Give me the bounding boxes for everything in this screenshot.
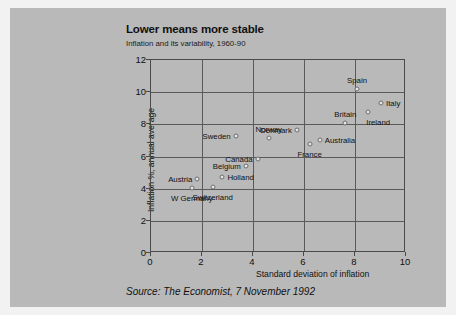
- data-point-label: Denmark: [260, 126, 292, 135]
- plot-area: W GermanyAustriaSwitzerlandHollandSweden…: [150, 59, 405, 252]
- data-point: [266, 135, 271, 140]
- data-point: [189, 185, 194, 190]
- x-tick-mark: [303, 252, 304, 256]
- data-point-label: Australia: [325, 136, 355, 145]
- data-point-label: Switzerland: [193, 193, 233, 202]
- x-tick-label: 2: [198, 256, 203, 267]
- y-tick-label: 12: [135, 54, 146, 65]
- x-axis-tick-labels: 0246810: [150, 256, 405, 270]
- y-tick-mark: [146, 59, 150, 60]
- chart-card: Lower means more stable Inflation and it…: [10, 8, 446, 307]
- y-tick-mark: [146, 220, 150, 221]
- x-tick-label: 4: [249, 256, 254, 267]
- data-point: [220, 175, 225, 180]
- data-point-label: Ireland: [366, 117, 390, 126]
- gridline-vertical: [253, 60, 254, 251]
- chart-title: Lower means more stable: [126, 23, 264, 35]
- data-point: [195, 177, 200, 182]
- x-tick-label: 8: [351, 256, 356, 267]
- data-point: [379, 100, 384, 105]
- x-tick-label: 10: [400, 256, 411, 267]
- gridline-vertical: [202, 60, 203, 251]
- data-point-label: Britain: [334, 110, 356, 119]
- x-tick-mark: [354, 252, 355, 256]
- data-point: [255, 156, 260, 161]
- y-tick-mark: [146, 123, 150, 124]
- chart-page: Lower means more stable Inflation and it…: [0, 0, 456, 315]
- data-point: [355, 86, 360, 91]
- gridline-horizontal: [151, 92, 404, 93]
- data-point: [343, 121, 348, 126]
- x-tick-label: 0: [147, 256, 152, 267]
- data-point-label: Austria: [168, 175, 192, 184]
- x-tick-mark: [201, 252, 202, 256]
- data-point: [210, 185, 215, 190]
- x-axis-label: Standard deviation of inflation: [256, 269, 369, 279]
- data-point-label: Sweden: [202, 131, 230, 140]
- x-tick-label: 6: [300, 256, 305, 267]
- x-tick-mark: [405, 252, 406, 256]
- data-point-label: Italy: [386, 98, 400, 107]
- data-point: [243, 163, 248, 168]
- y-tick-mark: [146, 188, 150, 189]
- data-point: [366, 109, 371, 114]
- data-point: [233, 133, 238, 138]
- x-tick-mark: [252, 252, 253, 256]
- data-point-label: France: [297, 149, 321, 158]
- data-point: [294, 128, 299, 133]
- y-axis-label-wrapper: Inflation %, annual average: [114, 59, 128, 252]
- data-point-label: Spain: [347, 75, 367, 84]
- y-axis-tick-labels: 024681012: [128, 59, 146, 252]
- gridline-horizontal: [151, 221, 404, 222]
- data-point-label: Canada: [225, 154, 252, 163]
- data-point-label: Holland: [227, 173, 253, 182]
- data-point: [307, 141, 312, 146]
- data-point: [317, 138, 322, 143]
- gridline-horizontal: [151, 157, 404, 158]
- y-tick-mark: [146, 91, 150, 92]
- x-tick-mark: [150, 252, 151, 256]
- y-tick-label: 10: [135, 86, 146, 97]
- y-tick-mark: [146, 156, 150, 157]
- source-note: Source: The Economist, 7 November 1992: [126, 286, 315, 297]
- chart-subtitle: Inflation and its variability, 1960-90: [126, 39, 245, 48]
